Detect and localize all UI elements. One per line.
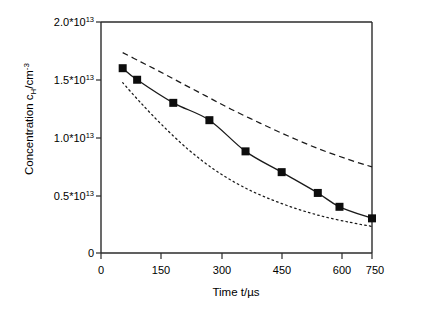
data-point-marker bbox=[119, 64, 127, 72]
x-axis-tick-marks bbox=[101, 253, 372, 259]
y-axis-tick-labels: 2.0*1013 1.5*1013 1.0*1013 0.5*1013 0 bbox=[54, 15, 94, 259]
y-tick-label-1.5e13: 1.5*1013 bbox=[54, 73, 94, 86]
x-tick-label-150: 150 bbox=[152, 264, 170, 276]
x-axis-title: Time t/µs bbox=[212, 286, 259, 298]
data-point-marker bbox=[335, 203, 343, 211]
data-point-marker bbox=[205, 116, 213, 124]
data-point-marker bbox=[169, 99, 177, 107]
y-tick-label-2.0e13: 2.0*1013 bbox=[54, 15, 94, 28]
x-tick-label-600: 600 bbox=[333, 264, 351, 276]
data-point-marker bbox=[278, 168, 286, 176]
data-series-layer bbox=[119, 53, 376, 227]
series-measured-solid bbox=[123, 68, 372, 218]
chart-figure: 2.0*1013 1.5*1013 1.0*1013 0.5*1013 0 Co… bbox=[0, 0, 429, 310]
data-point-marker bbox=[314, 189, 322, 197]
y-tick-label-1.0e13: 1.0*1013 bbox=[54, 131, 94, 144]
x-tick-label-450: 450 bbox=[273, 264, 291, 276]
y-tick-label-0.5e13: 0.5*1013 bbox=[54, 189, 94, 202]
x-tick-label-0: 0 bbox=[98, 264, 104, 276]
data-point-marker bbox=[133, 76, 141, 84]
svg-text:Concentration cH/cm-3: Concentration cH/cm-3 bbox=[22, 62, 38, 175]
x-axis-tick-labels: 0 150 300 450 600 750 bbox=[98, 264, 384, 276]
y-axis-title: Concentration cH/cm-3 bbox=[22, 62, 38, 175]
x-tick-label-300: 300 bbox=[213, 264, 231, 276]
y-axis-tick-marks bbox=[96, 22, 101, 253]
data-point-marker bbox=[368, 214, 376, 222]
series-measured-markers bbox=[119, 64, 376, 222]
data-point-marker bbox=[242, 147, 250, 155]
y-tick-label-0: 0 bbox=[88, 247, 94, 259]
x-tick-label-750: 750 bbox=[366, 264, 384, 276]
concentration-vs-time-plot: 2.0*1013 1.5*1013 1.0*1013 0.5*1013 0 Co… bbox=[0, 0, 429, 310]
